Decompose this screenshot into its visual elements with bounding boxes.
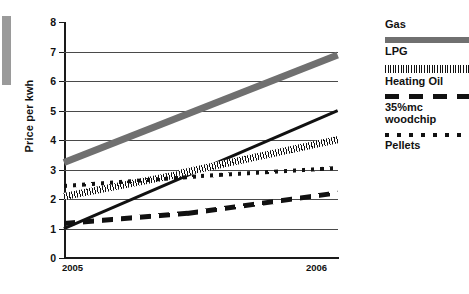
data-series-layer [64,22,338,258]
gridlines-layer: 012345678 [64,22,338,258]
series-line-pellets [64,174,201,187]
legend-label: Pellets [385,139,469,151]
legend-swatch-icon [385,94,469,99]
chart-area: Price per kwh 012345678 2005 2006 [0,0,360,294]
y-tick-mark-7 [59,52,64,53]
series-line-heating-oil [178,137,338,178]
y-tick-label-6: 6 [50,75,56,87]
series-line-35-mc-woodchip [187,190,338,216]
gridline-5 [64,111,338,112]
x-tick-label-2005: 2005 [62,262,83,273]
y-tick-mark-1 [59,229,64,230]
chart-screenshot: Price per kwh 012345678 2005 2006 GasLPG… [0,0,469,294]
y-tick-label-4: 4 [50,134,56,146]
legend-label: Gas [385,18,469,30]
y-tick-mark-8 [59,22,64,23]
legend-swatch-icon [385,133,469,137]
gridline-3 [64,170,338,171]
y-tick-mark-3 [59,170,64,171]
y-tick-label-0: 0 [50,252,56,264]
legend-label: LPG [385,45,469,57]
gridline-2 [64,199,338,200]
legend-entry: LPG [385,37,469,57]
y-axis-title: Price per kwh [23,51,35,181]
y-tick-mark-6 [59,81,64,82]
legend-entry: Heating Oil [385,65,469,87]
y-tick-mark-2 [59,199,64,200]
chart-legend: GasLPGHeating Oil35%mc woodchipPellets [385,18,469,158]
series-line-heating-oil [63,170,179,199]
y-tick-label-2: 2 [50,193,56,205]
series-line-gas [63,109,338,230]
legend-entry: Pellets [385,133,469,151]
y-tick-label-7: 7 [50,46,56,58]
legend-swatch-icon [385,37,469,43]
gridline-1 [64,229,338,230]
series-line-lpg [63,51,340,165]
y-tick-label-3: 3 [50,164,56,176]
x-tick-label-2006: 2006 [306,262,327,273]
gridline-4 [64,140,338,141]
gridline-7 [64,52,338,53]
series-line-35-mc-woodchip [64,211,188,227]
y-tick-label-5: 5 [50,105,56,117]
y-tick-label-1: 1 [50,223,56,235]
y-tick-label-8: 8 [50,16,56,28]
y-tick-mark-4 [59,140,64,141]
legend-entry: 35%mc woodchip [385,94,469,126]
legend-entry: Gas [385,18,469,30]
y-tick-mark-5 [59,111,64,112]
plot-region: 012345678 [64,22,338,258]
gridline-6 [64,81,338,82]
series-line-pellets [201,166,338,178]
legend-label: Heating Oil [385,75,469,87]
legend-swatch-icon [385,65,469,73]
legend-label: 35%mc woodchip [385,101,469,126]
